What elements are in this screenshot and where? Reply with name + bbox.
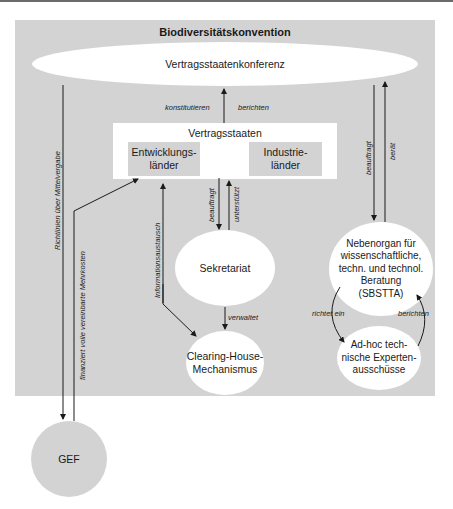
edge-info-chm bbox=[163, 284, 196, 336]
label-commissions-sec: beauftragt bbox=[207, 188, 216, 222]
label-guidelines: Richtlinien über Mittelvergabe bbox=[53, 151, 62, 250]
label-report-parties: berichten bbox=[238, 103, 269, 112]
label-report-adhoc: berichten bbox=[398, 309, 429, 318]
label-advises: berät bbox=[388, 143, 397, 160]
label-establishes: richtet ein bbox=[312, 309, 345, 318]
edge-report-adhoc bbox=[417, 295, 425, 346]
label-administers: verwaltet bbox=[228, 313, 258, 322]
label-commissions-sbstta: beauftragt bbox=[364, 141, 373, 175]
label-constitute: konstitutieren bbox=[165, 103, 210, 112]
label-supports: unterstützt bbox=[232, 187, 241, 222]
label-finances: finanziert volle vereinbarte Mehrkosten bbox=[78, 251, 87, 380]
label-info-exchange: Informationsaustausch bbox=[153, 223, 162, 298]
connector-lines bbox=[0, 0, 453, 509]
